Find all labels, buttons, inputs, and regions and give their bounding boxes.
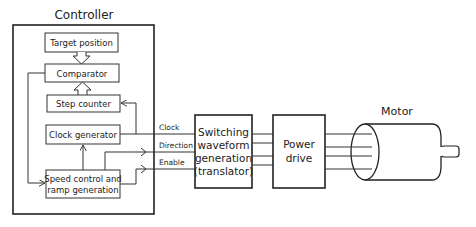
speed-control-label-line1: Speed control and: [44, 174, 122, 184]
power-drive-label-line1: Power: [283, 138, 315, 150]
target-position-label: Target position: [49, 38, 113, 48]
translator-label-line4: (translator): [194, 165, 253, 177]
target-position-block: Target position: [45, 33, 118, 52]
controller-title: Controller: [54, 8, 113, 22]
translator-block: Switching waveform generation (translato…: [194, 115, 253, 188]
translator-to-power-lines: [252, 134, 273, 165]
power-drive-block: Power drive: [273, 115, 325, 188]
enable-signal-label: Enable: [159, 158, 185, 167]
clock-generator-label: Clock generator: [49, 130, 117, 140]
translator-label-line1: Switching: [198, 126, 249, 138]
speed-control-label-line2: ramp generation: [47, 185, 118, 195]
motor-icon: [351, 124, 459, 180]
comparator-block: Comparator: [45, 64, 119, 82]
speed-control-block: Speed control and ramp generation: [44, 170, 122, 198]
step-counter-label: Step counter: [56, 99, 111, 109]
power-drive-label-line2: drive: [286, 152, 313, 164]
stepper-motor-control-diagram: Controller Target position Comparator St…: [0, 0, 476, 227]
translator-label-line2: waveform: [197, 139, 249, 151]
translator-label-line3: generation: [195, 152, 252, 164]
step-counter-block: Step counter: [47, 95, 120, 112]
comparator-label: Comparator: [57, 69, 108, 79]
clock-generator-block: Clock generator: [46, 125, 120, 144]
direction-signal-label: Direction: [159, 141, 193, 150]
motor-label: Motor: [381, 105, 413, 118]
clock-signal-label: Clock: [159, 123, 180, 132]
